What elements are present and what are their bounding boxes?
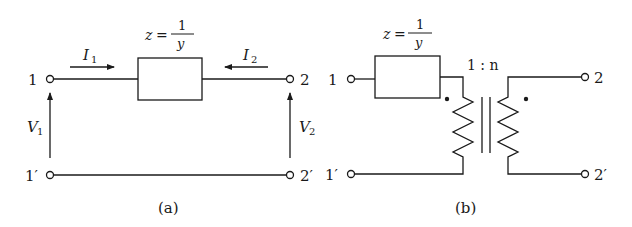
labels-a: z = 1 y I 1 I 2 V 1 V 2 1 2 1′ 2′ (a) (25, 18, 315, 217)
terminal-b-2-prime (582, 171, 589, 178)
terminal-b-2-label: 2 (594, 69, 604, 87)
equals-b: = (394, 26, 406, 42)
terminal-1p-label: 1′ (25, 167, 39, 185)
impedance-box (138, 58, 202, 100)
den-a: y (176, 36, 185, 51)
i2-label: I (242, 46, 250, 64)
terminal-b-2p-label: 2′ (594, 166, 608, 184)
equals-a: = (156, 27, 168, 43)
terminal-b-1-prime (348, 171, 355, 178)
terminal-1 (47, 76, 54, 83)
terminal-1-label: 1 (28, 71, 38, 89)
polarity-dot-secondary (524, 97, 528, 101)
terminal-2-prime (287, 172, 294, 179)
transformer-ratio: 1 : n (467, 57, 499, 73)
terminal-b-1-label: 1 (328, 71, 338, 89)
terminal-2 (287, 76, 294, 83)
terminal-b-1 (348, 76, 355, 83)
den-b: y (414, 35, 423, 50)
secondary-winding (498, 77, 582, 174)
num-a: 1 (178, 18, 186, 33)
primary-winding (355, 77, 474, 174)
i2-sub: 2 (251, 54, 257, 65)
v1-sub: 1 (37, 126, 43, 137)
terminal-b-1p-label: 1′ (325, 166, 339, 184)
impedance-box-b (375, 56, 440, 98)
z-label-b: z (382, 26, 391, 42)
i1-sub: 1 (91, 54, 97, 65)
terminal-2-label: 2 (300, 71, 310, 89)
terminal-2p-label: 2′ (300, 167, 314, 185)
polarity-dot-primary (445, 97, 449, 101)
labels-b: z = 1 y 1 : n 1 1′ 2 2′ (b) (325, 17, 608, 217)
caption-a: (a) (158, 199, 179, 217)
z-label-a: z (144, 27, 153, 43)
terminal-b-2 (582, 74, 589, 81)
diagram-b (348, 33, 589, 178)
terminal-1-prime (47, 172, 54, 179)
caption-b: (b) (455, 199, 476, 217)
v2-sub: 2 (309, 126, 315, 137)
i1-label: I (82, 46, 90, 64)
circuit-diagrams: z = 1 y I 1 I 2 V 1 V 2 1 2 1′ 2′ (a) (0, 0, 632, 227)
num-b: 1 (416, 17, 424, 32)
